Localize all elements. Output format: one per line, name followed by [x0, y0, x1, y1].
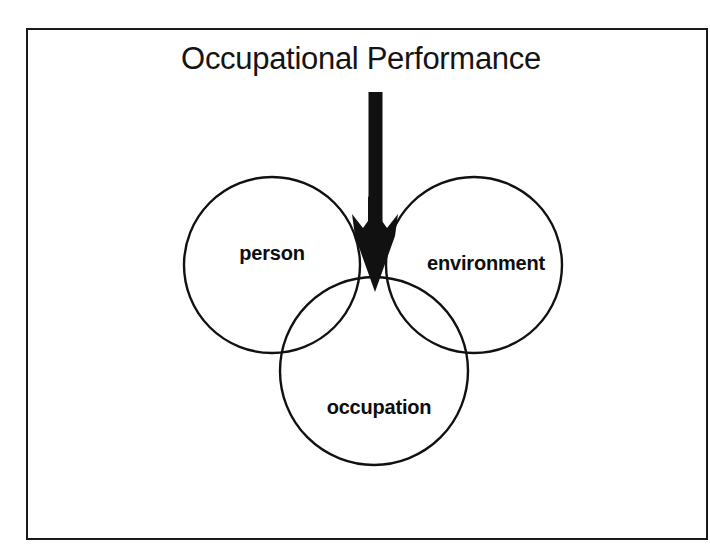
venn-label-occupation: occupation: [327, 396, 432, 419]
venn-label-environment: environment: [427, 252, 545, 275]
venn-diagram-graphic: [0, 0, 710, 550]
circle-person: [184, 177, 360, 353]
venn-label-person: person: [239, 242, 304, 265]
circle-occupation: [280, 277, 468, 465]
triple-intersection-shade: [0, 0, 710, 550]
diagram-canvas: Occupational Performance: [0, 0, 710, 550]
